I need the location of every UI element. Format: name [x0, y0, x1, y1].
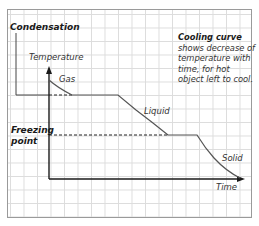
- y-axis-arrow-icon: [46, 66, 52, 74]
- x-axis-label: Time: [216, 182, 237, 192]
- note-title: Cooling curve: [178, 32, 256, 43]
- condensation-bracket-line: [16, 33, 49, 95]
- cooling-curve-note: Cooling curve shows decrease of temperat…: [178, 32, 256, 85]
- condensation-label: Condensation: [10, 22, 80, 32]
- y-axis-label: Temperature: [29, 52, 83, 62]
- freezing-point-label-line2: point: [11, 136, 37, 146]
- cooling-curve: [49, 80, 240, 178]
- solid-label: Solid: [222, 153, 243, 163]
- liquid-label: Liquid: [144, 106, 170, 116]
- gas-label: Gas: [59, 74, 75, 84]
- note-body: shows decrease of temperature with time,…: [178, 43, 255, 85]
- freezing-point-label-line1: Freezing: [11, 125, 54, 135]
